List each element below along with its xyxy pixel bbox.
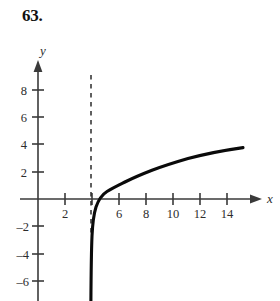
x-tick-label-14: 14 bbox=[221, 207, 234, 221]
x-tick-label-10: 10 bbox=[167, 207, 180, 221]
y-tick-label-8: 8 bbox=[21, 84, 27, 98]
x-tick-label-8: 8 bbox=[143, 207, 149, 221]
y-tick-label-6: 6 bbox=[21, 111, 27, 125]
log-curve bbox=[91, 148, 243, 301]
y-tick-label-group: 8 6 4 2 –2 –4 –6 bbox=[16, 84, 30, 289]
x-axis-label: x bbox=[266, 191, 273, 206]
x-tick-label-12: 12 bbox=[194, 207, 207, 221]
x-axis-arrow-icon bbox=[250, 195, 262, 204]
y-axis-label: y bbox=[38, 43, 46, 58]
x-tick-label-6: 6 bbox=[116, 207, 122, 221]
y-axis-arrow-icon bbox=[34, 60, 43, 72]
coordinate-plot: y x 8 6 4 2 –2 –4 –6 bbox=[0, 0, 280, 301]
math-figure: 63. y x 8 6 4 2 –2 bbox=[0, 0, 280, 301]
x-tick-label-group: 2 6 8 10 12 14 bbox=[62, 207, 234, 221]
y-tick-label-neg2: –2 bbox=[16, 220, 30, 234]
x-tick-label-2: 2 bbox=[62, 207, 68, 221]
y-tick-label-neg6: –6 bbox=[16, 275, 30, 289]
y-tick-label-2: 2 bbox=[21, 166, 27, 180]
y-tick-label-4: 4 bbox=[21, 138, 28, 152]
y-tick-label-neg4: –4 bbox=[16, 248, 30, 262]
